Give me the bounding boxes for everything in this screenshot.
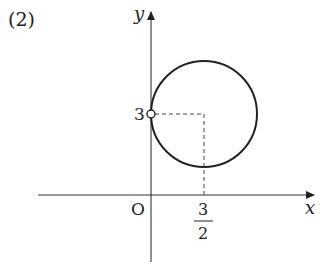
y-axis-label: y <box>133 3 145 24</box>
origin-label: O <box>131 199 145 219</box>
problem-label: (2) <box>8 8 35 30</box>
x-tick-numerator: 3 <box>198 200 208 219</box>
x-axis-label: x <box>305 197 315 218</box>
x-tick-denominator: 2 <box>198 224 208 243</box>
diagram-canvas: (2) x y O 3 3 2 <box>0 0 320 265</box>
y-tick-label-3: 3 <box>134 104 145 124</box>
open-point-marker <box>147 110 155 118</box>
